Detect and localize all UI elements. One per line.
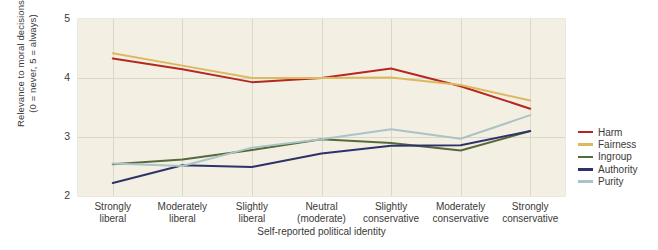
legend-swatch-icon xyxy=(578,168,593,171)
legend-label: Harm xyxy=(598,127,622,138)
line-chart-figure: Relevance to moral decisions (0 = never,… xyxy=(0,0,658,250)
series-line-fairness xyxy=(113,53,530,100)
legend-item-harm[interactable]: Harm xyxy=(578,126,637,138)
legend-item-fairness[interactable]: Fairness xyxy=(578,138,637,150)
plot-area xyxy=(78,19,565,196)
x-axis-title: Self-reported political identity xyxy=(78,226,565,237)
y-tick-label: 2 xyxy=(46,189,70,201)
legend-label: Fairness xyxy=(598,139,636,150)
y-axis-title-line1: Relevance to moral decisions xyxy=(15,0,26,127)
legend-swatch-icon xyxy=(578,143,593,146)
y-axis-title-line2: (0 = never, 5 = always) xyxy=(26,0,38,174)
x-tick-label: Stronglyconservative xyxy=(483,201,577,225)
series-line-harm xyxy=(113,59,530,109)
chart-legend: HarmFairnessIngroupAuthorityPurity xyxy=(578,126,637,188)
legend-swatch-icon xyxy=(578,180,593,183)
legend-swatch-icon xyxy=(578,131,593,134)
legend-label: Authority xyxy=(598,164,637,175)
legend-swatch-icon xyxy=(578,156,593,159)
legend-item-ingroup[interactable]: Ingroup xyxy=(578,151,637,163)
y-tick-label: 4 xyxy=(46,71,70,83)
legend-item-authority[interactable]: Authority xyxy=(578,163,637,175)
y-tick-label: 3 xyxy=(46,130,70,142)
series-line-purity xyxy=(113,115,530,166)
y-axis-title: Relevance to moral decisions (0 = never,… xyxy=(15,0,38,174)
x-tick-label-line: Strongly xyxy=(483,201,577,213)
x-tick-label-line: conservative xyxy=(483,213,577,225)
series-lines xyxy=(78,19,565,196)
legend-label: Purity xyxy=(598,176,624,187)
y-tick-label: 5 xyxy=(46,12,70,24)
legend-label: Ingroup xyxy=(598,151,632,162)
legend-item-purity[interactable]: Purity xyxy=(578,176,637,188)
